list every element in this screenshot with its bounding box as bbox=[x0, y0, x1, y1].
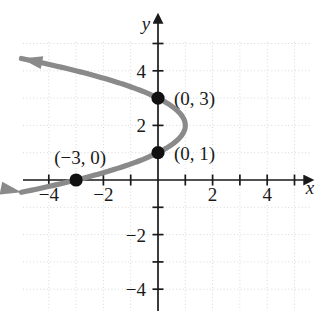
x-axis-name: x bbox=[305, 177, 315, 198]
x-tick-label: −4 bbox=[39, 184, 60, 205]
y-tick-label: 4 bbox=[137, 61, 147, 82]
x-tick-label: 2 bbox=[208, 184, 218, 205]
marked-point bbox=[70, 173, 83, 186]
y-tick-label: −2 bbox=[126, 225, 146, 246]
y-tick-label: 2 bbox=[137, 115, 147, 136]
y-axis-name: y bbox=[140, 13, 151, 34]
marked-point bbox=[151, 92, 164, 105]
x-tick-label: 4 bbox=[262, 184, 272, 205]
point-label: (0, 1) bbox=[174, 143, 215, 165]
point-label: (−3, 0) bbox=[54, 147, 106, 169]
figure-background bbox=[0, 0, 330, 319]
graph-figure: −4−22442−2−4 (0, 3)(0, 1)(−3, 0) x y bbox=[0, 0, 330, 319]
y-tick-label: −4 bbox=[126, 279, 147, 300]
marked-point bbox=[151, 146, 164, 159]
x-tick-label: −2 bbox=[93, 184, 113, 205]
point-label: (0, 3) bbox=[174, 88, 215, 110]
coordinate-plane-svg: −4−22442−2−4 (0, 3)(0, 1)(−3, 0) x y bbox=[0, 0, 330, 319]
